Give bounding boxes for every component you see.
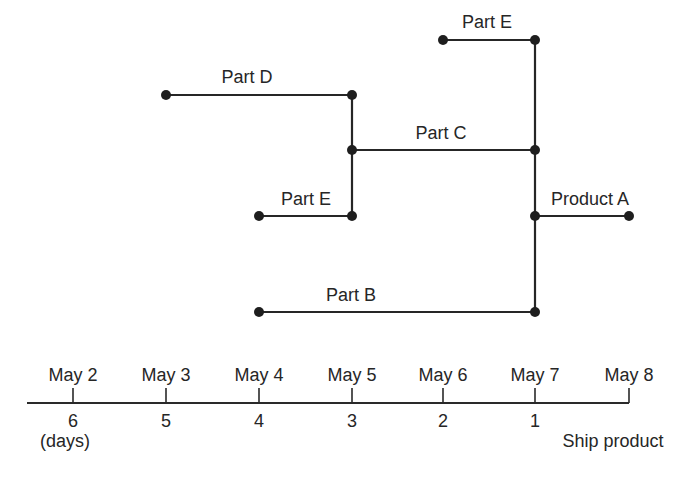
days-unit-label: (days) (40, 431, 90, 451)
node-dot (530, 35, 540, 45)
node-dot (347, 211, 357, 221)
timeline-date-label: May 4 (234, 365, 283, 385)
assembly-connectors (352, 40, 535, 312)
edge-label-part-d: Part D (221, 67, 272, 87)
edge-label-part-b: Part B (326, 285, 376, 305)
edge-label-part-e-top: Part E (462, 12, 512, 32)
component-labels: Part EPart DPart CPart EProduct APart B (221, 12, 629, 305)
timeline-days-label: 5 (161, 411, 171, 431)
node-dot (530, 145, 540, 155)
edge-label-product-a: Product A (551, 189, 629, 209)
timeline-days-label: 1 (530, 411, 540, 431)
node-dot (347, 90, 357, 100)
node-dot (624, 211, 634, 221)
node-dot (530, 211, 540, 221)
node-dot (347, 145, 357, 155)
timeline-days-label: 2 (438, 411, 448, 431)
node-dot (254, 307, 264, 317)
timeline-date-label: May 2 (48, 365, 97, 385)
node-dot (161, 90, 171, 100)
ship-product-label: Ship product (562, 431, 663, 451)
node-dot (254, 211, 264, 221)
timeline-date-label: May 6 (418, 365, 467, 385)
assembly-time-chart: Part EPart DPart CPart EProduct APart B … (0, 0, 688, 480)
node-dot (438, 35, 448, 45)
timeline-date-label: May 5 (327, 365, 376, 385)
timeline-date-label: May 8 (604, 365, 653, 385)
timeline-days-label: 4 (254, 411, 264, 431)
edge-label-part-c: Part C (415, 123, 466, 143)
timeline-days-label: 3 (347, 411, 357, 431)
node-dot (530, 307, 540, 317)
edge-label-part-e-bottom: Part E (281, 189, 331, 209)
timeline-date-label: May 3 (141, 365, 190, 385)
timeline-date-label: May 7 (510, 365, 559, 385)
timeline-axis: May 26May 35May 44May 53May 62May 71May … (27, 365, 654, 431)
timeline-days-label: 6 (68, 411, 78, 431)
